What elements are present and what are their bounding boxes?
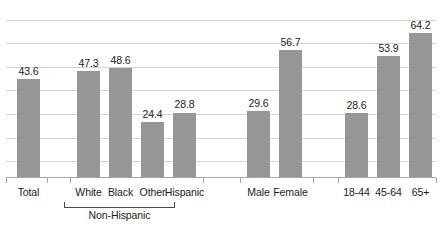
axis-tick [6,178,7,183]
plot-area [6,8,436,178]
bar [377,56,400,177]
category-label: Total [6,186,51,198]
bar [173,113,196,178]
non-hispanic-group-label: Non-Hispanic [64,209,175,221]
axis-tick [338,178,339,183]
bar-value-label: 56.7 [273,36,308,48]
gridline [6,161,436,162]
bar [109,68,132,177]
gridline [6,114,436,115]
axis-tick [313,178,314,183]
bar [141,122,164,177]
bar-value-label: 53.9 [371,42,406,54]
bar [279,50,302,177]
bar-chart: 43.647.348.624.428.829.656.728.653.964.2… [0,0,443,232]
bar [77,71,100,177]
bar [345,113,368,177]
axis-tick [203,178,204,183]
category-label: Hispanic [162,186,207,198]
gridline [6,90,436,91]
axis-tick [436,178,437,183]
bar-value-label: 24.4 [135,108,170,120]
bar-value-label: 28.6 [339,99,374,111]
bar [17,79,40,177]
bar-value-label: 48.6 [103,54,138,66]
gridline [6,138,436,139]
category-label: Female [268,186,313,198]
bar [247,111,270,177]
category-label: 65+ [398,186,443,198]
bar-value-label: 64.2 [403,19,438,31]
bar-value-label: 28.8 [167,98,202,110]
bar-value-label: 47.3 [71,57,106,69]
axis-tick [70,178,71,183]
non-hispanic-group-bracket [64,202,175,208]
axis-tick [240,178,241,183]
axis-tick [47,178,48,183]
bar-value-label: 43.6 [11,65,46,77]
bar-value-label: 29.6 [241,97,276,109]
gridline [6,20,436,21]
bar [409,33,432,177]
